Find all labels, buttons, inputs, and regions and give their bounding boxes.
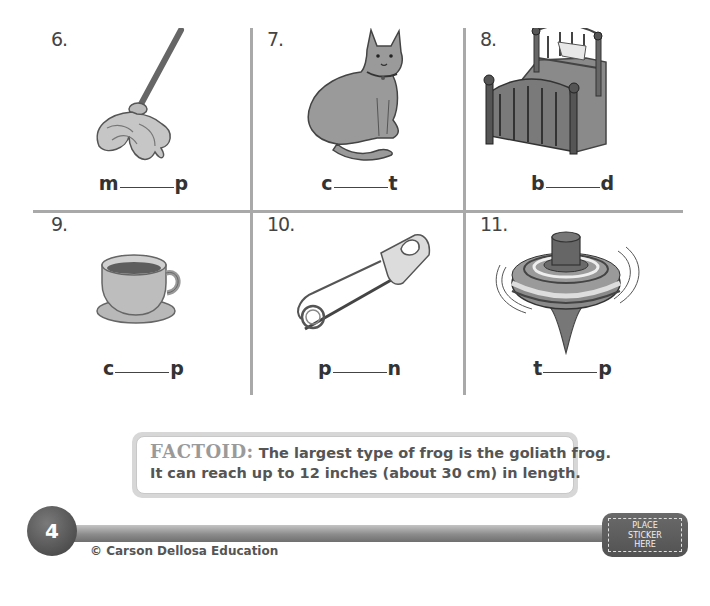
last-letter: n	[388, 357, 402, 379]
answer-blank[interactable]	[334, 187, 388, 188]
sticker-line-3: HERE	[609, 540, 681, 550]
fill-in-word: tp	[466, 357, 679, 379]
sticker-line-1: PLACE	[609, 521, 681, 531]
worksheet-item-mop: 6. mp	[37, 28, 250, 210]
first-letter: p	[318, 357, 332, 379]
first-letter: m	[99, 172, 119, 194]
first-letter: c	[321, 172, 332, 194]
sticker-placeholder: PLACE STICKER HERE	[602, 513, 688, 557]
copyright-text: © Carson Dellosa Education	[90, 544, 278, 558]
factoid-label: FACTOID:	[150, 441, 254, 462]
first-letter: c	[103, 357, 114, 379]
fill-in-word: mp	[37, 172, 250, 194]
last-letter: d	[601, 172, 615, 194]
first-letter: t	[533, 357, 542, 379]
last-letter: p	[170, 357, 184, 379]
answer-blank[interactable]	[546, 187, 600, 188]
last-letter: p	[598, 357, 612, 379]
first-letter: b	[531, 172, 545, 194]
worksheet-item-bed: 8. bd	[466, 28, 679, 210]
page-number-badge: 4	[27, 506, 77, 556]
worksheet-item-spinning-top: 11. tp	[466, 213, 679, 395]
answer-blank[interactable]	[333, 372, 387, 373]
footer-bar	[60, 525, 620, 542]
worksheet-item-cup: 9. cp	[37, 213, 250, 395]
factoid-line-2: It can reach up to 12 inches (about 30 c…	[150, 463, 573, 483]
worksheet-item-cat: 7. ct	[253, 28, 466, 210]
factoid-content: FACTOID: The largest type of frog is the…	[136, 436, 574, 494]
last-letter: t	[389, 172, 398, 194]
factoid-box: FACTOID: The largest type of frog is the…	[132, 432, 578, 498]
answer-blank[interactable]	[120, 187, 174, 188]
factoid-text-1: The largest type of frog is the goliath …	[259, 445, 611, 461]
fill-in-word: cp	[37, 357, 250, 379]
fill-in-word: pn	[253, 357, 466, 379]
sticker-line-2: STICKER	[609, 531, 681, 541]
factoid-line-1: FACTOID: The largest type of frog is the…	[150, 442, 573, 463]
answer-blank[interactable]	[543, 372, 597, 373]
worksheet-item-safety-pin: 10. pn	[253, 213, 466, 395]
last-letter: p	[175, 172, 189, 194]
fill-in-word: bd	[466, 172, 679, 194]
sticker-label: PLACE STICKER HERE	[608, 518, 682, 552]
fill-in-word: ct	[253, 172, 466, 194]
answer-blank[interactable]	[115, 372, 169, 373]
